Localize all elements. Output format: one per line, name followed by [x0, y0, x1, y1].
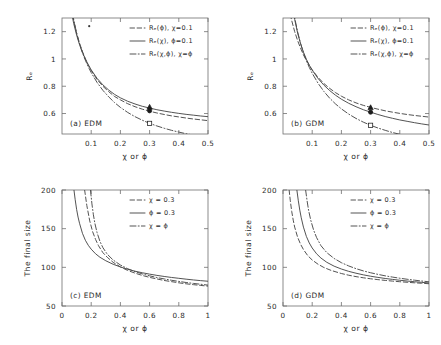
legend-label: χ = ϕ	[149, 222, 168, 230]
legend-label: ϕ = 0.3	[149, 209, 175, 217]
y-tick-label: 100	[262, 263, 277, 272]
y-tick-label: 150	[41, 224, 56, 233]
x-tick-label: 0.5	[423, 139, 436, 148]
x-tick-label: 0.3	[364, 139, 377, 148]
data-marker-circle	[369, 110, 373, 114]
panel-d-gdm: 00.20.40.60.8150100150200χ or ϕThe final…	[221, 172, 441, 344]
y-axis-title: The final size	[23, 219, 32, 277]
y-axis-title: The final size	[244, 219, 253, 277]
panel-b-gdm: 0.10.20.30.40.50.60.811.2χ or ϕRₑ(b) GDM…	[221, 0, 441, 172]
x-tick-label: 0.4	[335, 311, 348, 320]
x-tick-label: 0.4	[393, 139, 406, 148]
legend-label: Rₑ(ϕ), χ=0.1	[149, 24, 193, 32]
panel-caption: (d) GDM	[291, 291, 324, 300]
y-tick-label: 1	[272, 55, 277, 64]
curve-dashed	[286, 0, 429, 117]
plot-frame	[283, 190, 429, 306]
curve-dashed	[85, 190, 208, 286]
curve-solid	[297, 190, 429, 283]
y-tick-label: 50	[267, 302, 277, 311]
x-tick-label: 0.3	[143, 139, 156, 148]
x-tick-label: 0.8	[172, 311, 185, 320]
figure-canvas: 0.10.20.30.40.50.60.811.2χ or ϕRₑ(a) EDM…	[0, 0, 441, 345]
y-tick-label: 100	[41, 263, 56, 272]
x-tick-label: 1	[427, 311, 432, 320]
y-tick-label: 1.2	[43, 27, 56, 36]
x-axis-title: χ or ϕ	[123, 324, 148, 333]
x-tick-label: 0.1	[85, 139, 98, 148]
x-tick-label: 0.2	[306, 311, 319, 320]
legend-label: Rₑ(χ), ϕ=0.1	[370, 37, 414, 45]
curve-dashdot	[65, 0, 208, 138]
legend-label: Rₑ(χ), ϕ=0.1	[149, 37, 193, 45]
y-tick-label: 200	[41, 186, 56, 195]
x-tick-label: 0.6	[143, 311, 156, 320]
y-tick-label: 150	[262, 224, 277, 233]
x-tick-label: 0.6	[364, 311, 377, 320]
x-tick-label: 0.2	[85, 311, 98, 320]
x-axis-title: χ or ϕ	[344, 324, 369, 333]
scan-speck	[88, 13, 90, 15]
y-axis-title: Rₑ	[246, 71, 255, 80]
panel-caption: (b) GDM	[291, 119, 324, 128]
panel-caption: (c) EDM	[70, 291, 102, 300]
y-tick-label: 0.6	[43, 109, 56, 118]
y-tick-label: 0.8	[43, 82, 56, 91]
legend-label: χ = ϕ	[370, 222, 389, 230]
x-tick-label: 0.5	[202, 139, 215, 148]
x-tick-label: 1	[206, 311, 211, 320]
y-axis-title: Rₑ	[25, 71, 34, 80]
legend-label: Rₑ(ϕ), χ=0.1	[370, 24, 414, 32]
data-marker-square	[369, 123, 373, 127]
x-axis-title: χ or ϕ	[123, 152, 148, 161]
legend-label: Rₑ(χ,ϕ), χ=ϕ	[370, 50, 414, 58]
x-tick-label: 0	[60, 311, 65, 320]
plot-frame	[283, 18, 429, 134]
plot-frame	[62, 190, 208, 306]
y-tick-label: 0.8	[264, 82, 277, 91]
legend-label: χ = 0.3	[370, 196, 396, 204]
y-tick-label: 1	[51, 55, 56, 64]
x-tick-label: 0	[281, 311, 286, 320]
x-tick-label: 0.8	[393, 311, 406, 320]
legend-label: Rₑ(χ,ϕ), χ=ϕ	[149, 50, 193, 58]
x-tick-label: 0.1	[306, 139, 319, 148]
x-axis-title: χ or ϕ	[344, 152, 369, 161]
legend-label: χ = 0.3	[149, 196, 175, 204]
x-tick-label: 0.4	[114, 311, 127, 320]
panel-caption: (a) EDM	[70, 119, 102, 128]
x-tick-label: 0.2	[335, 139, 348, 148]
x-tick-label: 0.2	[114, 139, 127, 148]
y-tick-label: 200	[262, 186, 277, 195]
y-tick-label: 50	[46, 302, 56, 311]
legend-label: ϕ = 0.3	[370, 209, 396, 217]
data-marker-circle	[148, 109, 152, 113]
x-tick-label: 0.4	[172, 139, 185, 148]
panel-a-edm: 0.10.20.30.40.50.60.811.2χ or ϕRₑ(a) EDM…	[0, 0, 220, 172]
y-tick-label: 1.2	[264, 27, 277, 36]
y-tick-label: 0.6	[264, 109, 277, 118]
panel-c-edm: 00.20.40.60.8150100150200χ or ϕThe final…	[0, 172, 220, 344]
data-marker-square	[148, 121, 152, 125]
